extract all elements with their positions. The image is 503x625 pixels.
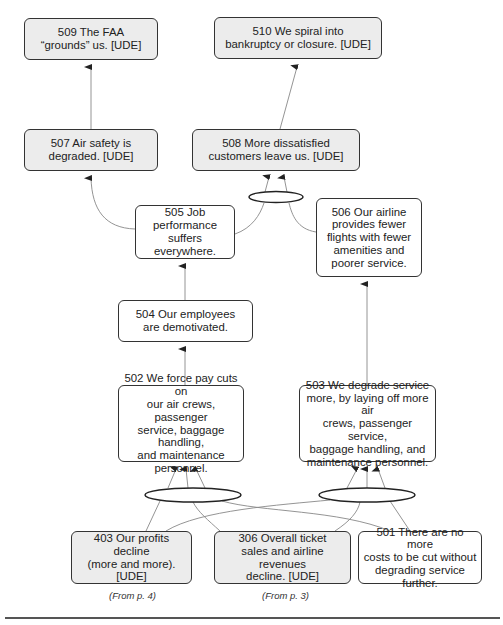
from-page-4-label: (From p. 4)	[109, 590, 156, 601]
node-504-text: 504 Our employees are demotivated.	[136, 308, 235, 334]
edge-506-and	[289, 203, 316, 232]
node-403: 403 Our profits decline (more and more).…	[71, 531, 192, 584]
node-503-text: 503 We degrade service more, by laying o…	[304, 379, 431, 469]
node-501: 501 There are no more costs to be cut wi…	[358, 531, 482, 584]
node-403-text: 403 Our profits decline (more and more).…	[76, 532, 187, 583]
bottom-divider	[5, 617, 500, 619]
node-306-text: 306 Overall ticket sales and airline rev…	[219, 532, 346, 583]
node-502-text: 502 We force pay cuts on our air crews, …	[123, 372, 239, 474]
edge-505-507	[91, 178, 135, 229]
node-501-text: 501 There are no more costs to be cut wi…	[363, 526, 477, 590]
node-509-text: 509 The FAA “grounds” us. [UDE]	[41, 26, 142, 52]
from-page-3-label: (From p. 3)	[262, 590, 309, 601]
node-508-text: 508 More dissatisfied customers leave us…	[209, 137, 344, 163]
node-507: 507 Air safety is degraded. [UDE]	[24, 129, 158, 171]
node-508: 508 More dissatisfied customers leave us…	[192, 129, 360, 171]
node-510-text: 510 We spiral into bankruptcy or closure…	[225, 25, 371, 51]
node-503: 503 We degrade service more, by laying o…	[299, 385, 436, 462]
node-504: 504 Our employees are demotivated.	[118, 300, 253, 342]
node-506-text: 506 Our airline provides fewer flights w…	[327, 206, 411, 270]
and-connector-503	[319, 488, 415, 502]
edge-508-510	[280, 67, 297, 129]
node-505: 505 Job performance suffers everywhere.	[135, 205, 235, 259]
and-connector-508	[249, 192, 303, 203]
node-502: 502 We force pay cuts on our air crews, …	[118, 385, 244, 462]
node-505-text: 505 Job performance suffers everywhere.	[140, 206, 230, 257]
node-507-text: 507 Air safety is degraded. [UDE]	[49, 137, 134, 163]
node-510: 510 We spiral into bankruptcy or closure…	[214, 17, 382, 59]
and-connector-502	[145, 488, 241, 502]
node-306: 306 Overall ticket sales and airline rev…	[214, 531, 351, 584]
node-509: 509 The FAA “grounds” us. [UDE]	[24, 18, 158, 60]
edge-505-and	[235, 203, 264, 234]
node-506: 506 Our airline provides fewer flights w…	[316, 198, 422, 277]
